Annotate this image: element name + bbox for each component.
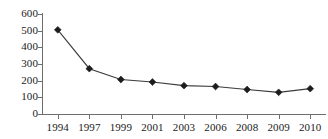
series-layer xyxy=(0,0,328,139)
data-point-marker xyxy=(212,83,219,90)
line-chart: 0100200300400500600 19941997199920012003… xyxy=(0,0,328,139)
data-point-marker xyxy=(181,82,188,89)
data-point-marker xyxy=(307,85,314,92)
data-point-marker xyxy=(149,79,156,86)
data-point-marker xyxy=(244,86,251,93)
marker-group xyxy=(54,26,313,95)
data-point-marker xyxy=(117,76,124,83)
data-point-marker xyxy=(275,89,282,96)
